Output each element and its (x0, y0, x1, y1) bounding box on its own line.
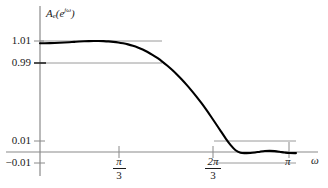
ytick-label-0.01: 0.01 (0, 135, 31, 146)
y-axis-title-exponent: jω (64, 6, 71, 13)
ytick-label-1.01: 1.01 (0, 35, 31, 46)
xtick-label-2pi-over-3: 2π 3 (201, 156, 225, 181)
response-curve (40, 41, 296, 153)
y-axis-title-close: ) (71, 7, 75, 19)
x-axis-title: ω (311, 155, 319, 166)
y-axis-title: Ae(ejω) (46, 7, 75, 20)
xtick-2pi-over-3-denominator: 3 (201, 170, 225, 181)
y-axis-title-main: A (46, 7, 53, 19)
xtick-2pi-over-3-numerator: 2π (201, 156, 225, 167)
xtick-pi-over-3-numerator: π (108, 156, 130, 167)
ytick-label-0.99: 0.99 (0, 57, 31, 68)
xtick-pi-over-3-denominator: 3 (108, 170, 130, 181)
amplitude-response-plot (0, 0, 328, 188)
ytick-label-neg-0.01: −0.01 (0, 157, 31, 168)
xtick-label-pi-over-3: π 3 (108, 156, 130, 181)
figure-container: 1.01 0.99 0.01 −0.01 Ae(ejω) π 3 2π 3 π … (0, 0, 328, 188)
xtick-label-pi: π (285, 156, 291, 167)
